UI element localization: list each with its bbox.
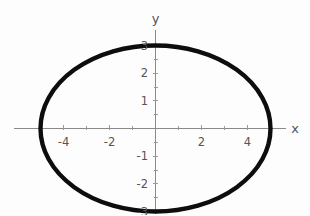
x-tick-label-pos2: 2 (198, 135, 205, 149)
y-tick-label-neg2: -2 (137, 177, 148, 191)
x-tick-label-pos4: 4 (244, 135, 251, 149)
plot-canvas: -4 -2 2 4 3 2 1 -1 -2 -3 x y (0, 0, 310, 215)
ellipse-plot: -4 -2 2 4 3 2 1 -1 -2 -3 x y (0, 0, 310, 215)
y-tick-label-neg3: -3 (137, 205, 148, 216)
y-tick-label-neg1: -1 (137, 149, 148, 163)
y-axis-label: y (152, 11, 160, 26)
y-tick-label-pos3: 3 (141, 39, 148, 53)
x-axis-label: x (291, 121, 299, 136)
x-tick-label-neg4: -4 (58, 135, 69, 149)
x-tick-label-neg2: -2 (104, 135, 115, 149)
y-tick-label-pos2: 2 (141, 66, 148, 80)
y-tick-label-pos1: 1 (141, 94, 148, 108)
